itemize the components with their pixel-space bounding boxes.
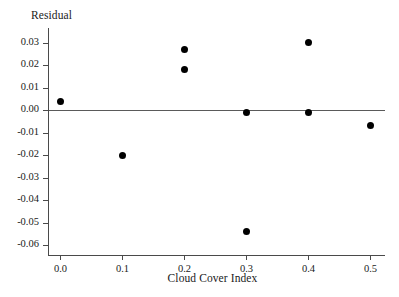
y-tick: 0.02 [43, 65, 49, 66]
y-tick-label: 0.03 [21, 36, 39, 47]
y-tick: -0.04 [43, 200, 49, 201]
x-tick: 0.0 [60, 255, 61, 260]
data-point [243, 228, 250, 235]
y-axis-title: Residual [31, 9, 72, 21]
y-tick-label: -0.04 [17, 193, 39, 204]
x-axis-title: Cloud Cover Index [0, 272, 399, 284]
y-tick-label: -0.05 [17, 216, 39, 227]
y-tick-label: 0.01 [21, 81, 39, 92]
y-tick: 0.00 [43, 110, 49, 111]
plot-data-area [60, 28, 370, 253]
y-tick: -0.05 [43, 223, 49, 224]
y-tick: -0.03 [43, 178, 49, 179]
y-tick: -0.02 [43, 155, 49, 156]
y-tick-label: 0.00 [21, 103, 39, 114]
x-tick: 0.4 [308, 255, 309, 260]
y-tick: -0.06 [43, 245, 49, 246]
y-tick: 0.01 [43, 88, 49, 89]
x-tick: 0.5 [370, 255, 371, 260]
x-axis-spine [48, 255, 385, 256]
data-point [367, 122, 374, 129]
y-tick-label: -0.01 [17, 126, 39, 137]
data-point [181, 66, 188, 73]
y-tick-label: -0.06 [17, 238, 39, 249]
data-point [305, 39, 312, 46]
y-tick: 0.03 [43, 43, 49, 44]
x-tick: 0.1 [122, 255, 123, 260]
x-tick: 0.2 [184, 255, 185, 260]
residual-scatter-plot: Residual 0.030.020.010.00-0.01-0.02-0.03… [0, 0, 399, 297]
data-point [305, 109, 312, 116]
y-tick-label: -0.03 [17, 171, 39, 182]
data-point [181, 46, 188, 53]
y-tick-label: 0.02 [21, 58, 39, 69]
data-point [243, 109, 250, 116]
y-tick: -0.01 [43, 133, 49, 134]
x-tick: 0.3 [246, 255, 247, 260]
data-point [119, 152, 126, 159]
data-point [57, 98, 64, 105]
y-tick-label: -0.02 [17, 148, 39, 159]
